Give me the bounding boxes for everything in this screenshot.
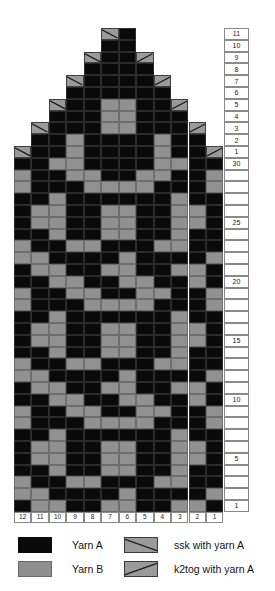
chart-cell-yarn-a <box>119 28 136 40</box>
chart-cell-yarn-a <box>31 358 48 370</box>
chart-cell-yarn-a <box>119 158 136 170</box>
chart-cell-yarn-a <box>66 347 83 359</box>
chart-cell-yarn-b <box>154 358 171 370</box>
chart-cell-yarn-a <box>154 299 171 311</box>
row-number-cell: 20 <box>224 276 249 288</box>
chart-cell-yarn-b <box>189 205 206 217</box>
chart-cell-yarn-a <box>206 382 223 394</box>
chart-cell-yarn-b <box>66 240 83 252</box>
chart-cell-yarn-a <box>206 500 223 512</box>
row-number-cell: 3 <box>224 122 249 134</box>
row-number-cell <box>224 193 249 205</box>
chart-cell-yarn-a <box>84 276 101 288</box>
chart-cell-yarn-a <box>171 170 188 182</box>
chart-cell-yarn-a <box>84 429 101 441</box>
legend-row-1: Yarn A ssk with yarn A <box>14 534 264 558</box>
chart-cell-yarn-b <box>136 288 153 300</box>
chart-cell-yarn-a <box>31 229 48 241</box>
chart-cell-yarn-a <box>154 229 171 241</box>
chart-cell-yarn-a <box>101 75 118 87</box>
chart-cell-yarn-b <box>49 429 66 441</box>
chart-cell-yarn-a <box>206 264 223 276</box>
chart-cell-yarn-b <box>206 417 223 429</box>
chart-cell-yarn-a <box>31 276 48 288</box>
chart-cell-yarn-b <box>49 323 66 335</box>
chart-cell-yarn-b <box>66 158 83 170</box>
chart-cell-yarn-b <box>206 406 223 418</box>
chart-cell-yarn-b <box>66 476 83 488</box>
chart-cell-yarn-a <box>119 358 136 370</box>
chart-cell-yarn-a <box>84 488 101 500</box>
chart-cell-yarn-a <box>66 193 83 205</box>
chart-cell-yarn-b <box>31 323 48 335</box>
chart-cell-yarn-a <box>206 205 223 217</box>
column-number-cell: 10 <box>49 512 66 523</box>
ssk-swatch-icon <box>124 537 158 553</box>
chart-cell-yarn-b <box>119 205 136 217</box>
chart-cell-yarn-a <box>66 264 83 276</box>
chart-cell-yarn-a <box>136 488 153 500</box>
chart-cell-yarn-a <box>14 347 31 359</box>
chart-cell-yarn-a <box>136 252 153 264</box>
chart-cell-yarn-a <box>189 158 206 170</box>
yarn-a-swatch-icon <box>18 537 52 553</box>
chart-cell-yarn-a <box>14 441 31 453</box>
chart-cell-yarn-a <box>154 205 171 217</box>
chart-cell-yarn-a <box>119 52 136 64</box>
chart-cell-yarn-a <box>206 311 223 323</box>
chart-cell-yarn-a <box>14 500 31 512</box>
chart-cell-yarn-a <box>14 264 31 276</box>
chart-cell-k2tog <box>171 99 188 111</box>
chart-cell-yarn-a <box>31 170 48 182</box>
chart-cell-yarn-b <box>101 465 118 477</box>
column-number-cell: 2 <box>189 512 206 523</box>
chart-cell-yarn-b <box>14 370 31 382</box>
chart-cell-yarn-a <box>154 500 171 512</box>
chart-cell-yarn-a <box>119 40 136 52</box>
chart-cell-yarn-a <box>189 465 206 477</box>
row-number-cell <box>224 347 249 359</box>
chart-cell-yarn-b <box>154 476 171 488</box>
chart-cell-yarn-a <box>154 87 171 99</box>
chart-cell-yarn-a <box>154 417 171 429</box>
chart-cell-yarn-a <box>66 111 83 123</box>
row-number-cell: 4 <box>224 111 249 123</box>
chart-cell-ssk <box>14 146 31 158</box>
chart-cell-yarn-a <box>171 146 188 158</box>
chart-cell-yarn-a <box>189 370 206 382</box>
chart-cell-yarn-b <box>31 488 48 500</box>
chart-cell-yarn-b <box>84 170 101 182</box>
chart-cell-yarn-a <box>14 335 31 347</box>
row-number-cell: 7 <box>224 75 249 87</box>
chart-cell-yarn-b <box>206 288 223 300</box>
chart-cell-yarn-b <box>154 240 171 252</box>
chart-cell-yarn-b <box>14 240 31 252</box>
chart-cell-yarn-b <box>171 205 188 217</box>
chart-cell-yarn-a <box>119 134 136 146</box>
chart-cell-yarn-b <box>119 299 136 311</box>
chart-cell-yarn-a <box>136 311 153 323</box>
chart-cell-yarn-b <box>49 193 66 205</box>
chart-cell-yarn-a <box>119 406 136 418</box>
chart-cell-yarn-b <box>49 394 66 406</box>
chart-cell-yarn-b <box>189 453 206 465</box>
chart-cell-yarn-a <box>136 335 153 347</box>
chart-cell-yarn-a <box>206 465 223 477</box>
row-number-cell <box>224 417 249 429</box>
chart-cell-yarn-a <box>206 429 223 441</box>
chart-cell-yarn-a <box>171 370 188 382</box>
row-number-cell <box>224 170 249 182</box>
chart-cell-yarn-b <box>14 417 31 429</box>
chart-cell-yarn-a <box>171 252 188 264</box>
chart-cell-yarn-a <box>31 146 48 158</box>
row-number-cell: 15 <box>224 335 249 347</box>
chart-cell-yarn-a <box>206 158 223 170</box>
chart-cell-yarn-a <box>66 465 83 477</box>
chart-cell-yarn-b <box>119 500 136 512</box>
chart-cell-yarn-b <box>119 394 136 406</box>
chart-cell-yarn-a <box>119 193 136 205</box>
chart-cell-yarn-b <box>136 276 153 288</box>
legend-label-k2tog: k2tog with yarn A <box>174 560 254 578</box>
chart-cell-yarn-a <box>154 111 171 123</box>
chart-cell-yarn-a <box>31 429 48 441</box>
